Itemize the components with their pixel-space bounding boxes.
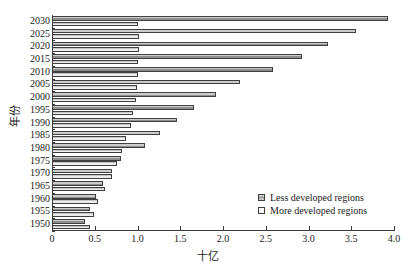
x-tick-mark-0: [52, 226, 53, 231]
y-tick-mark-2030: [52, 28, 55, 29]
bar-more-developed-1975: [52, 161, 117, 166]
bar-more-developed-1970: [52, 174, 112, 179]
bar-group-1965: [52, 180, 394, 193]
y-tick-mark-1990: [52, 129, 55, 130]
y-tick-mark-2005: [52, 91, 55, 92]
y-tick-label-2020: 2020: [4, 41, 50, 51]
y-tick-label-1960: 1960: [4, 194, 50, 204]
bar-less-developed-2015: [52, 54, 302, 59]
bar-more-developed-2015: [52, 60, 138, 65]
legend-label-more-developed: More developed regions: [270, 205, 367, 217]
x-tick-label-4.0: 4.0: [379, 234, 409, 244]
bar-group-1985: [52, 129, 394, 142]
y-tick-mark-2000: [52, 104, 55, 105]
x-tick-label-1.0: 1.0: [123, 234, 153, 244]
bar-less-developed-1960: [52, 194, 96, 199]
bar-less-developed-1970: [52, 169, 112, 174]
x-tick-mark-1.5: [180, 226, 181, 231]
bar-less-developed-1950: [52, 219, 85, 224]
y-tick-label-1965: 1965: [4, 181, 50, 191]
legend-item-more-developed: More developed regions: [258, 205, 367, 217]
y-tick-mark-2020: [52, 53, 55, 54]
y-tick-mark-2025: [52, 40, 55, 41]
bar-more-developed-1965: [52, 187, 105, 192]
bar-group-1995: [52, 104, 394, 117]
x-tick-label-3.0: 3.0: [294, 234, 324, 244]
bar-more-developed-2000: [52, 98, 136, 103]
bar-less-developed-1965: [52, 181, 103, 186]
bar-group-1990: [52, 117, 394, 130]
y-tick-mark-1955: [52, 218, 55, 219]
x-tick-mark-0.5: [95, 226, 96, 231]
legend: Less developed regions More developed re…: [258, 192, 367, 217]
clipped-header-text: [4, 0, 304, 5]
y-tick-label-1980: 1980: [4, 143, 50, 153]
legend-label-less-developed: Less developed regions: [270, 192, 364, 204]
bar-less-developed-1980: [52, 143, 145, 148]
bar-more-developed-1960: [52, 199, 98, 204]
bar-less-developed-2010: [52, 67, 273, 72]
y-tick-label-2010: 2010: [4, 67, 50, 77]
bar-group-2025: [52, 28, 394, 41]
x-tick-mark-4.0: [394, 226, 395, 231]
bar-group-1975: [52, 155, 394, 168]
bar-less-developed-2005: [52, 80, 240, 85]
bar-more-developed-2005: [52, 85, 137, 90]
y-tick-label-2025: 2025: [4, 29, 50, 39]
legend-swatch-less-developed: [258, 194, 265, 201]
bar-more-developed-2020: [52, 47, 139, 52]
bar-more-developed-2025: [52, 34, 139, 39]
x-tick-mark-1.0: [138, 226, 139, 231]
y-tick-mark-2010: [52, 79, 55, 80]
y-tick-label-1970: 1970: [4, 168, 50, 178]
x-tick-mark-3.5: [351, 226, 352, 231]
bar-group-2020: [52, 40, 394, 53]
bar-group-2010: [52, 66, 394, 79]
bar-more-developed-2030: [52, 22, 138, 27]
bar-more-developed-1985: [52, 136, 126, 141]
bar-group-2005: [52, 79, 394, 92]
x-axis-title: 十亿: [0, 247, 416, 263]
y-tick-label-2030: 2030: [4, 16, 50, 26]
bar-less-developed-2000: [52, 92, 216, 97]
y-tick-mark-1980: [52, 155, 55, 156]
bar-group-1980: [52, 142, 394, 155]
bar-less-developed-1955: [52, 207, 90, 212]
bar-more-developed-1950: [52, 225, 90, 230]
x-tick-label-0.5: 0.5: [80, 234, 110, 244]
y-tick-label-1975: 1975: [4, 156, 50, 166]
bar-less-developed-2025: [52, 29, 356, 34]
bar-more-developed-1990: [52, 123, 131, 128]
bar-less-developed-1995: [52, 105, 194, 110]
legend-item-less-developed: Less developed regions: [258, 192, 367, 204]
bar-more-developed-1980: [52, 149, 122, 154]
x-tick-mark-2.0: [223, 226, 224, 231]
y-tick-mark-1975: [52, 167, 55, 168]
x-tick-mark-2.5: [266, 226, 267, 231]
y-tick-mark-1950: [52, 231, 55, 232]
legend-swatch-more-developed: [258, 207, 265, 214]
bar-more-developed-1955: [52, 212, 94, 217]
y-tick-label-2005: 2005: [4, 79, 50, 89]
x-tick-label-3.5: 3.5: [336, 234, 366, 244]
y-axis-title: 年份: [6, 96, 22, 136]
y-tick-label-1955: 1955: [4, 206, 50, 216]
bar-more-developed-2010: [52, 72, 138, 77]
y-tick-mark-1965: [52, 193, 55, 194]
bar-more-developed-1995: [52, 111, 133, 116]
bar-group-2015: [52, 53, 394, 66]
bar-group-2000: [52, 91, 394, 104]
x-tick-label-0: 0: [37, 234, 67, 244]
bar-less-developed-1990: [52, 118, 177, 123]
bar-less-developed-2030: [52, 16, 388, 21]
bar-less-developed-2020: [52, 42, 328, 47]
bar-group-2030: [52, 15, 394, 28]
y-tick-label-1950: 1950: [4, 219, 50, 229]
bar-less-developed-1985: [52, 131, 160, 136]
bar-less-developed-1975: [52, 156, 121, 161]
y-tick-mark-1995: [52, 117, 55, 118]
x-tick-label-2.0: 2.0: [208, 234, 238, 244]
y-tick-mark-1985: [52, 142, 55, 143]
x-tick-label-1.5: 1.5: [165, 234, 195, 244]
y-tick-mark-1970: [52, 180, 55, 181]
